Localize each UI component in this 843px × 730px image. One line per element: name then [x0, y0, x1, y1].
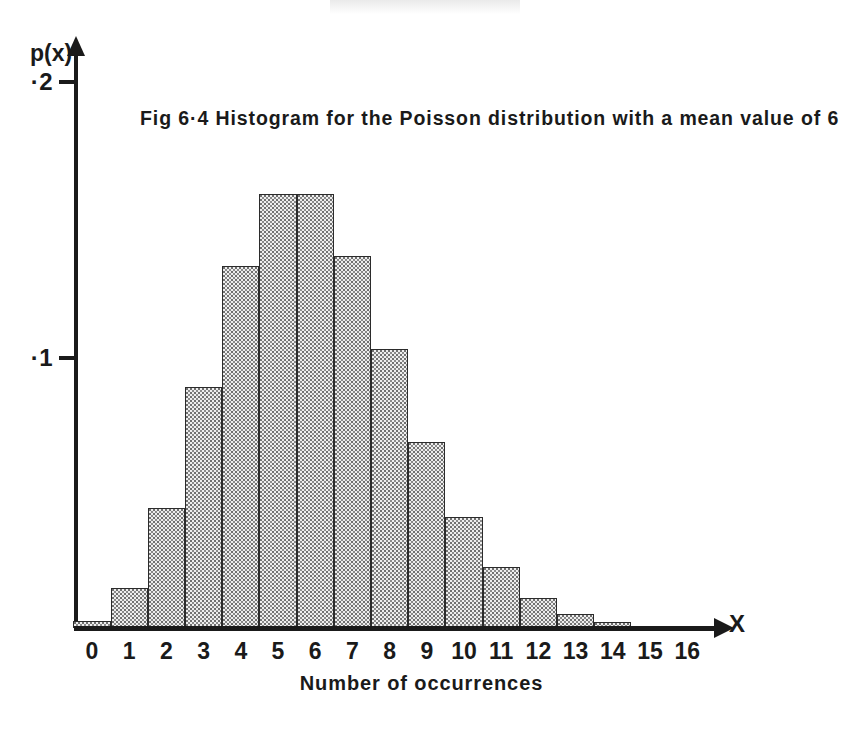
- x-tick-label: 16: [674, 638, 700, 665]
- histogram-bar: [371, 349, 408, 628]
- x-tick-label: 7: [346, 638, 359, 665]
- histogram-bar: [259, 194, 296, 628]
- x-tick-label: 8: [383, 638, 396, 665]
- figure-poisson-histogram: p(x) ·2 ·1 Fig 6·4 Histogram for the Poi…: [0, 0, 843, 730]
- x-axis-caption: Number of occurrences: [0, 672, 843, 695]
- histogram-bar: [111, 588, 148, 628]
- x-tick-label: 12: [526, 638, 552, 665]
- histogram-bar: [185, 387, 222, 628]
- histogram-bar: [297, 194, 334, 628]
- x-tick-label: 1: [123, 638, 136, 665]
- histogram-bar: [520, 598, 557, 629]
- histogram-bar: [148, 508, 185, 628]
- x-tick-label: 13: [563, 638, 589, 665]
- x-tick-label: 0: [86, 638, 99, 665]
- histogram-bar: [445, 517, 482, 629]
- x-tick-label: 15: [637, 638, 663, 665]
- x-tick-label: 2: [160, 638, 173, 665]
- x-tick-label: 6: [309, 638, 322, 665]
- histogram-bar: [408, 442, 445, 628]
- x-axis-line: [74, 626, 719, 631]
- x-tick-label: 10: [451, 638, 477, 665]
- histogram-bar: [483, 567, 520, 628]
- x-tick-label: 11: [489, 638, 513, 665]
- x-tick-label: 9: [420, 638, 433, 665]
- x-tick-label: 3: [197, 638, 210, 665]
- x-tick-label: 14: [600, 638, 626, 665]
- x-axis-label: X: [729, 610, 745, 638]
- x-tick-label: 5: [272, 638, 285, 665]
- x-tick-label: 4: [234, 638, 247, 665]
- histogram-bar: [222, 266, 259, 628]
- histogram-bar: [334, 256, 371, 628]
